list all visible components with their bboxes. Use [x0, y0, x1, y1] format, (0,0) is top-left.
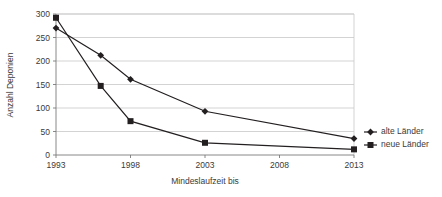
data-point-marker	[351, 146, 357, 152]
y-axis-ticks: 050100150200250300	[36, 9, 56, 160]
y-tick-label: 300	[36, 9, 50, 19]
data-point-marker	[98, 83, 104, 89]
y-tick-label: 100	[36, 103, 50, 113]
y-tick-label: 50	[41, 127, 51, 137]
x-tick-label: 2013	[345, 160, 364, 170]
legend-label: alte Länder	[381, 126, 424, 136]
legend-label: neue Länder	[381, 139, 429, 149]
x-axis-ticks: 19931998200320082013	[47, 155, 364, 170]
data-point-marker	[368, 142, 374, 148]
x-tick-label: 2003	[196, 160, 215, 170]
data-point-marker	[367, 129, 374, 136]
data-point-marker	[202, 140, 208, 146]
y-tick-label: 250	[36, 33, 50, 43]
legend: alte Länderneue Länder	[364, 126, 429, 149]
x-axis-title: Mindeslaufzeit bis	[171, 176, 239, 186]
line-chart: 050100150200250300 19931998200320082013 …	[0, 0, 442, 197]
data-point-marker	[53, 15, 59, 21]
data-point-marker	[128, 118, 134, 124]
y-tick-label: 200	[36, 56, 50, 66]
y-tick-label: 0	[45, 150, 50, 160]
y-axis-title: Anzahl Deponien	[5, 52, 15, 117]
x-tick-label: 1998	[121, 160, 140, 170]
y-tick-label: 150	[36, 80, 50, 90]
x-tick-label: 2008	[270, 160, 289, 170]
chart-container: 050100150200250300 19931998200320082013 …	[0, 0, 442, 197]
x-tick-label: 1993	[47, 160, 66, 170]
